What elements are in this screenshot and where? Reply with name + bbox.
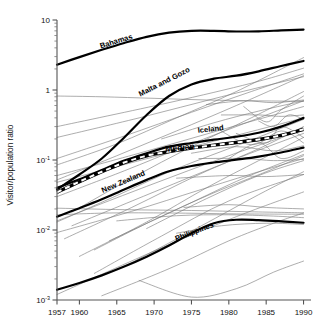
- background-line: [57, 208, 304, 213]
- x-tick-label: 1970: [145, 308, 163, 317]
- x-tick-label: 1990: [295, 308, 313, 317]
- background-line: [57, 77, 304, 138]
- y-tick-exponent: -3: [45, 295, 50, 301]
- y-tick-exponent: -1: [45, 155, 50, 161]
- y-tick-label: 10-2: [36, 225, 50, 235]
- series-annotation: Median: [165, 141, 195, 154]
- series-annotation: Iceland: [197, 123, 224, 135]
- background-series-group: [57, 58, 304, 298]
- x-tick-label: 1960: [71, 308, 89, 317]
- x-tick-label: 1965: [108, 308, 126, 317]
- highlighted-line: [57, 118, 304, 188]
- x-tick-label: 1975: [183, 308, 201, 317]
- y-tick-label: 10-1: [36, 155, 50, 165]
- chart-container: 10110-110-210-31957196019651970197519801…: [0, 0, 326, 334]
- highlighted-line: [57, 220, 304, 290]
- y-tick-label: 10-3: [36, 295, 50, 305]
- background-line: [94, 156, 303, 250]
- median-line-dashes: [57, 129, 304, 192]
- background-line: [124, 172, 303, 267]
- y-axis-title-group: Visitor/population ratio: [6, 124, 15, 205]
- visitor-population-ratio-chart: 10110-110-210-31957196019651970197519801…: [0, 0, 326, 334]
- y-tick-exponent: -2: [45, 225, 50, 231]
- x-tick-label: 1957: [48, 308, 66, 317]
- y-axis-title: Visitor/population ratio: [6, 124, 15, 205]
- x-tick-label: 1980: [220, 308, 238, 317]
- series-annotation: Philippines: [174, 220, 215, 243]
- axes-group: 10110-110-210-31957196019651970197519801…: [36, 16, 313, 317]
- y-tick-label: 10: [41, 16, 50, 25]
- series-annotation: Bahamas: [99, 32, 134, 50]
- highlighted-line: [57, 30, 304, 65]
- background-line: [57, 213, 304, 215]
- x-tick-label: 1985: [257, 308, 275, 317]
- y-tick-label: 1: [46, 86, 51, 95]
- background-line: [184, 205, 304, 209]
- series-annotation: Malta and Gozo: [137, 65, 191, 99]
- background-line: [57, 96, 304, 101]
- background-line: [139, 261, 303, 297]
